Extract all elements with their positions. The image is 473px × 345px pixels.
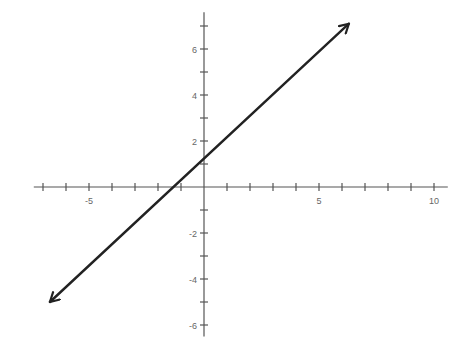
x-tick-label: -5 (85, 196, 93, 206)
y-tick-label: -4 (189, 275, 197, 285)
x-tick-label: 10 (429, 196, 439, 206)
plotted-line (50, 24, 349, 302)
y-tick-label: -2 (189, 229, 197, 239)
coordinate-plane: -5510642-2-4-6 (0, 0, 473, 345)
axis-ticks (43, 26, 434, 325)
line-with-arrows (50, 24, 349, 302)
axes (34, 12, 448, 336)
y-tick-label: 2 (192, 137, 197, 147)
y-tick-label: 6 (192, 45, 197, 55)
y-tick-label: 4 (192, 91, 197, 101)
y-tick-label: -6 (189, 321, 197, 331)
x-tick-label: 5 (316, 196, 321, 206)
